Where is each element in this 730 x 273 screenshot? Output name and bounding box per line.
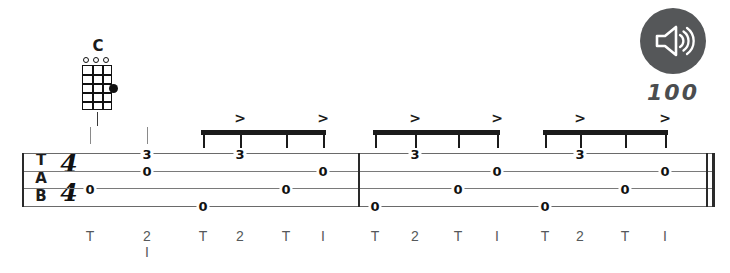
- chord-fret-line: [83, 92, 111, 93]
- accent-mark: >: [659, 112, 671, 124]
- chord-diagram[interactable]: C: [74, 38, 122, 116]
- note-stem: [415, 135, 417, 148]
- tab-note[interactable]: 0: [538, 200, 551, 213]
- staff-line: [22, 188, 712, 189]
- fingering-label: T: [541, 228, 550, 244]
- fingering-mark: T: [371, 228, 380, 244]
- tab-clef-b: B: [32, 187, 50, 205]
- accent-mark: >: [409, 112, 421, 124]
- fingering-sub-label: I: [143, 244, 151, 260]
- chord-stem-icon: [97, 112, 98, 126]
- tab-note[interactable]: 0: [658, 165, 671, 178]
- accent-mark: >: [491, 112, 503, 124]
- fingering-mark: I: [495, 228, 499, 244]
- fingering-mark: 2I: [143, 228, 151, 260]
- open-string-circle: [83, 57, 89, 63]
- fingering-label: 2: [576, 228, 584, 244]
- tab-note[interactable]: 3: [408, 147, 421, 160]
- fingering-mark: T: [454, 228, 463, 244]
- chord-fret-line: [83, 101, 111, 102]
- beam: [201, 130, 326, 135]
- tab-note[interactable]: 0: [618, 182, 631, 195]
- staff-line: [22, 171, 712, 172]
- accent-mark: >: [234, 112, 246, 124]
- accent-mark: >: [574, 112, 586, 124]
- fingering-label: I: [495, 228, 499, 244]
- note-stem: [240, 135, 242, 148]
- chord-fretboard-grid: [82, 65, 112, 110]
- tab-note[interactable]: 0: [196, 200, 209, 213]
- staff-line: [22, 206, 712, 207]
- fingering-mark: T: [282, 228, 291, 244]
- fingering-label: T: [371, 228, 380, 244]
- note-stem: [665, 135, 667, 148]
- fingering-mark: 2: [236, 228, 244, 244]
- tab-note[interactable]: 3: [573, 147, 586, 160]
- time-signature: 4 4: [58, 149, 80, 209]
- tab-note[interactable]: 3: [233, 147, 246, 160]
- fingering-label: T: [199, 228, 208, 244]
- tab-note[interactable]: 0: [140, 165, 153, 178]
- fingering-label: T: [282, 228, 291, 244]
- barline: [712, 153, 715, 207]
- note-stem: [545, 135, 547, 148]
- tab-note[interactable]: 3: [140, 147, 153, 160]
- tab-note[interactable]: 0: [451, 182, 464, 195]
- chord-name-label: C: [74, 38, 122, 54]
- open-string-circle: [93, 57, 99, 63]
- tab-editor-canvas: C 100 T A B 4 4 030030003000300>>>>>> T2…: [0, 0, 730, 273]
- tab-note[interactable]: 0: [368, 200, 381, 213]
- fingering-mark: I: [321, 228, 325, 244]
- tempo-value[interactable]: 100: [637, 80, 709, 105]
- speaker-button[interactable]: [640, 8, 706, 74]
- note-stem: [90, 127, 91, 144]
- fingering-label: I: [663, 228, 667, 244]
- note-stem: [147, 127, 148, 144]
- tab-note[interactable]: 0: [316, 165, 329, 178]
- tablature-staff[interactable]: T A B 4 4 030030003000300>>>>>>: [22, 153, 712, 211]
- speaker-icon: [653, 24, 695, 58]
- note-stem: [625, 135, 627, 148]
- fingering-mark: T: [541, 228, 550, 244]
- chord-finger-dot: [109, 84, 118, 93]
- barline: [358, 153, 360, 207]
- tab-note[interactable]: 0: [83, 182, 96, 195]
- tab-note[interactable]: 0: [279, 182, 292, 195]
- fingering-label: T: [454, 228, 463, 244]
- chord-open-string-markers: [81, 56, 115, 64]
- fingering-mark: 2: [411, 228, 419, 244]
- tab-clef: T A B: [32, 151, 50, 209]
- fingering-mark: T: [621, 228, 630, 244]
- fingering-mark: T: [199, 228, 208, 244]
- time-signature-denominator: 4: [58, 178, 80, 207]
- fingering-mark: T: [86, 228, 95, 244]
- note-stem: [497, 135, 499, 148]
- staff-line: [22, 153, 712, 154]
- chord-fret-line: [83, 74, 111, 75]
- fingering-label: 2: [411, 228, 419, 244]
- beam: [373, 130, 500, 135]
- note-stem: [580, 135, 582, 148]
- note-stem: [203, 135, 205, 148]
- note-stem: [286, 135, 288, 148]
- fingering-label: 2: [236, 228, 244, 244]
- fingering-label: T: [86, 228, 95, 244]
- barline: [706, 153, 708, 207]
- fingering-label: T: [621, 228, 630, 244]
- note-stem: [323, 135, 325, 148]
- accent-mark: >: [317, 112, 329, 124]
- fingering-label: 2: [143, 228, 151, 244]
- tab-note[interactable]: 0: [490, 165, 503, 178]
- beam: [543, 130, 668, 135]
- fingering-mark: I: [663, 228, 667, 244]
- fingering-mark: 2: [576, 228, 584, 244]
- fingering-label: I: [321, 228, 325, 244]
- staff-start-barline: [22, 153, 24, 207]
- open-string-circle: [103, 57, 109, 63]
- chord-fret-line: [83, 83, 111, 84]
- tempo-control[interactable]: 100: [640, 8, 714, 108]
- note-stem: [375, 135, 377, 148]
- note-stem: [458, 135, 460, 148]
